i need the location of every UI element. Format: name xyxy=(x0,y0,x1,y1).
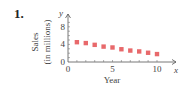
data-point xyxy=(93,43,97,47)
x-axis-label: Year xyxy=(104,75,121,85)
scatter-chart: 0510048YearxySales(in millions) xyxy=(0,0,187,86)
x-tick-label: 10 xyxy=(153,64,163,74)
y-axis-label-units: (in millions) xyxy=(42,20,52,65)
y-tick-label: 0 xyxy=(61,57,66,67)
data-point xyxy=(101,44,105,48)
data-point xyxy=(128,48,132,52)
data-point xyxy=(75,40,79,44)
y-tick-label: 8 xyxy=(61,22,66,32)
data-point xyxy=(110,45,114,49)
y-axis-symbol: y xyxy=(58,8,63,18)
data-points xyxy=(75,40,160,56)
data-point xyxy=(137,49,141,53)
data-point xyxy=(155,52,159,56)
y-axis-label: Sales xyxy=(30,32,40,51)
data-point xyxy=(146,51,150,55)
x-tick-label: 5 xyxy=(110,64,115,74)
x-axis-symbol: x xyxy=(173,65,178,75)
y-tick-label: 4 xyxy=(61,39,66,49)
data-point xyxy=(119,47,123,51)
axes xyxy=(66,14,177,65)
data-point xyxy=(84,41,88,45)
x-tick-label: 0 xyxy=(66,64,71,74)
